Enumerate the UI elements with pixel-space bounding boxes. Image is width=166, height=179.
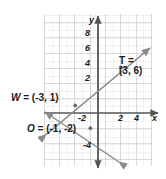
point-label-O-coords: = (-1, -2) xyxy=(35,123,76,134)
point-label-T-coords: (3, 6) xyxy=(119,66,142,76)
y-tick-4: 4 xyxy=(85,59,90,68)
x-tick-2: 2 xyxy=(118,114,123,123)
point-label-O: O = (-1, -2) xyxy=(27,124,76,134)
y-axis-name: y xyxy=(89,16,94,25)
point-marker-W xyxy=(73,104,77,108)
point-marker-O xyxy=(89,126,93,130)
y-tick-neg4: -4 xyxy=(83,141,91,150)
point-label-W-coords: = (-3, 1) xyxy=(20,92,58,103)
x-tick-4: 4 xyxy=(134,114,139,123)
x-axis-name: x xyxy=(152,114,157,123)
point-label-W: W = (-3, 1) xyxy=(11,93,59,103)
y-tick-2: 2 xyxy=(85,74,90,83)
y-tick-8: 8 xyxy=(85,29,90,38)
coordinate-plane-figure: 8 6 4 2 -4 -2 2 4 x y W = (-3, 1) T = (3… xyxy=(0,0,166,179)
y-tick-6: 6 xyxy=(85,44,90,53)
point-label-T: T = (3, 6) xyxy=(119,56,142,76)
plot-canvas xyxy=(0,0,166,179)
point-label-O-name: O xyxy=(27,123,35,134)
x-tick-neg2: -2 xyxy=(78,114,86,123)
